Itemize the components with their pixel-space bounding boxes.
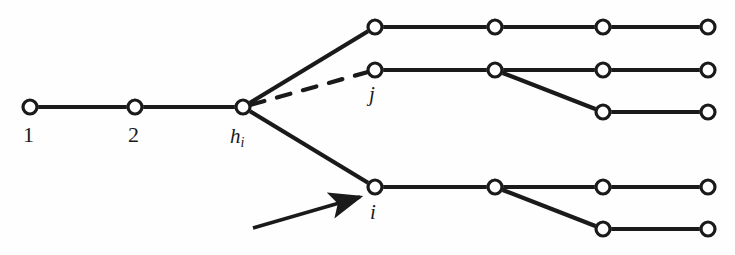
node-mid-row-2 xyxy=(488,63,502,77)
node-j xyxy=(368,63,382,77)
label-node-1: 1 xyxy=(23,124,34,146)
edge-h-to-top xyxy=(250,31,368,102)
label-node-2: 2 xyxy=(128,124,139,146)
nodes-layer xyxy=(23,20,715,236)
edge-h-to-j xyxy=(251,72,367,105)
label-node-h-subscript: i xyxy=(241,135,245,150)
node-mid-branch-1 xyxy=(596,105,610,119)
node-bot-row-4 xyxy=(701,180,715,194)
edge-h-to-i xyxy=(250,111,368,182)
node-i xyxy=(368,180,382,194)
node-top-row-3 xyxy=(596,20,610,34)
pointer-arrow-to-node-i xyxy=(253,197,360,228)
node-h-i xyxy=(236,100,250,114)
node-bot-row-3 xyxy=(596,180,610,194)
node-bot-branch-2 xyxy=(701,222,715,236)
node-mid-row-3 xyxy=(596,63,610,77)
label-node-h-i: hi xyxy=(230,126,244,150)
label-node-j: j xyxy=(369,84,375,105)
node-1 xyxy=(23,100,37,114)
node-2 xyxy=(128,100,142,114)
label-node-i: i xyxy=(370,202,376,223)
node-bot-row-2 xyxy=(488,180,502,194)
annotation-arrow-layer xyxy=(253,197,360,228)
node-top-row-1 xyxy=(368,20,382,34)
node-top-row-4 xyxy=(701,20,715,34)
edge-mid-2-branch xyxy=(503,73,596,109)
node-bot-branch-1 xyxy=(596,222,610,236)
node-mid-branch-2 xyxy=(701,105,715,119)
label-node-h-base: h xyxy=(230,124,241,148)
node-mid-row-4 xyxy=(701,63,715,77)
node-top-row-2 xyxy=(488,20,502,34)
tree-diagram-canvas xyxy=(0,0,735,255)
edge-bot-2-branch xyxy=(503,190,596,226)
tree-diagram-figure: 1 2 hi j i xyxy=(0,0,735,255)
